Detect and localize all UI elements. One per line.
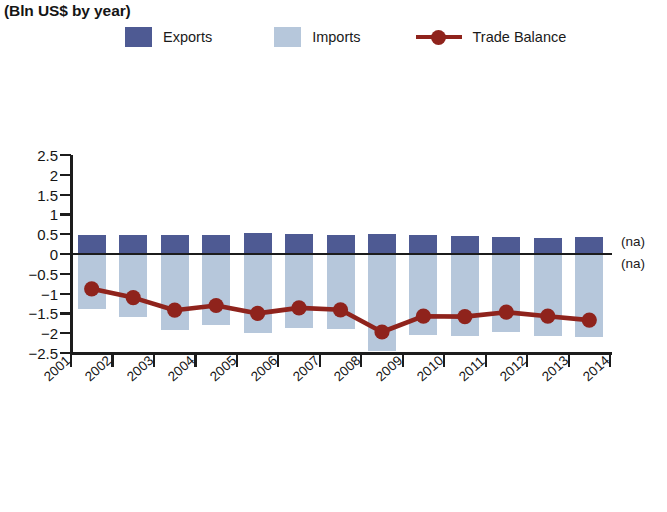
y-axis-label: −1.5: [14, 305, 58, 322]
chart-figure: (Bln US$ by year) Exports Imports Trade …: [0, 0, 667, 512]
y-axis-label: 1.5: [14, 186, 58, 203]
bar-imports: [78, 254, 106, 309]
bar-exports: [534, 238, 562, 254]
y-axis-tick: [60, 213, 71, 215]
bar-exports: [451, 236, 479, 254]
x-axis-label: 2012: [497, 353, 529, 384]
x-axis-label: 2002: [82, 353, 114, 384]
bar-imports: [285, 254, 313, 328]
y-axis-tick: [60, 174, 71, 176]
bar-imports: [409, 254, 437, 335]
bar-imports: [244, 254, 272, 333]
x-axis-label: 2007: [290, 353, 322, 384]
zero-line: [71, 253, 612, 255]
bar-imports: [202, 254, 230, 325]
x-axis-label: 2003: [124, 353, 156, 384]
bar-exports: [368, 234, 396, 254]
x-axis-label: 2004: [165, 353, 197, 384]
y-axis-label: 2: [14, 166, 58, 183]
bar-exports: [244, 233, 272, 254]
bar-exports: [409, 235, 437, 254]
y-axis-label: −2.5: [14, 345, 58, 362]
y-axis-tick: [60, 332, 71, 334]
bar-exports: [78, 235, 106, 254]
y-axis-label: 0: [14, 246, 58, 263]
bar-exports: [202, 235, 230, 254]
plot-area: 2.521.510.50−0.5−1−1.5−2−2.5200120022003…: [0, 0, 667, 512]
bar-imports: [368, 254, 396, 351]
y-axis-label: −0.5: [14, 265, 58, 282]
y-axis-label: −1: [14, 285, 58, 302]
bar-exports: [285, 234, 313, 254]
x-axis-label: 2006: [248, 353, 280, 384]
bar-exports: [327, 235, 355, 254]
bar-exports: [119, 235, 147, 254]
y-axis-label: 2.5: [14, 147, 58, 164]
y-axis-tick: [60, 233, 71, 235]
y-axis-label: 0.5: [14, 226, 58, 243]
na-label-above-axis: (na): [621, 234, 645, 249]
bar-imports: [451, 254, 479, 336]
y-axis-tick: [60, 194, 71, 196]
x-axis-label: 2011: [456, 354, 488, 385]
bar-imports: [327, 254, 355, 329]
y-axis-label: −2: [14, 325, 58, 342]
bar-imports: [492, 254, 520, 332]
x-axis-label: 2014: [580, 353, 612, 384]
bar-exports: [161, 235, 189, 254]
x-axis-label: 2013: [539, 353, 571, 384]
x-axis-label: 2005: [207, 353, 239, 384]
bar-imports: [119, 254, 147, 317]
bar-imports: [575, 254, 603, 337]
na-label-below-axis: (na): [621, 256, 645, 271]
bar-exports: [575, 237, 603, 254]
bar-imports: [161, 254, 189, 330]
y-axis-tick: [60, 273, 71, 275]
bar-imports: [534, 254, 562, 336]
x-axis-label: 2009: [373, 353, 405, 384]
y-axis-label: 1: [14, 206, 58, 223]
x-axis-label: 2008: [331, 353, 363, 384]
y-axis-tick: [60, 253, 71, 255]
y-axis-tick: [60, 312, 71, 314]
x-axis-label: 2010: [414, 353, 446, 384]
y-axis-tick: [60, 154, 71, 156]
y-axis-tick: [60, 293, 71, 295]
bar-exports: [492, 237, 520, 254]
